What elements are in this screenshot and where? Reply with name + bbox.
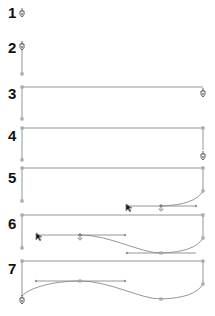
step-4-pen-icon <box>201 151 206 160</box>
step-5-arrow-icon <box>126 204 132 212</box>
diagram-canvas <box>0 0 215 316</box>
step-3-pen-icon <box>201 88 206 97</box>
step-7-pen-icon <box>20 295 25 304</box>
step-6-arrow-icon <box>36 233 42 241</box>
step-1-pen-icon <box>20 8 25 17</box>
step-4-path <box>21 127 204 161</box>
step-7-path <box>21 260 204 300</box>
step-3-path <box>21 86 203 120</box>
step-5-path <box>21 167 204 211</box>
step-6-path <box>21 214 204 254</box>
step-2-pen-icon <box>20 41 25 50</box>
